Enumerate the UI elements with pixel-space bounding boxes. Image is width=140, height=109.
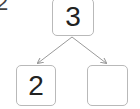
arrow-right-icon — [72, 37, 106, 63]
part-box-right-empty[interactable] — [87, 65, 128, 106]
part-box-left: 2 — [16, 65, 56, 106]
arrow-left-icon — [38, 37, 72, 63]
whole-box: 3 — [52, 0, 94, 36]
